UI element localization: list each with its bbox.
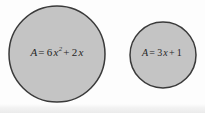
small-circle-plus-sign: + [168,47,176,58]
large-circle-plus-sign: + [62,46,70,58]
small-circle-area-label: A=3x+1 [110,48,205,58]
large-circle-equals-sign: = [37,46,45,58]
large-circle-linear-variable: x [78,46,83,58]
large-circle-quadratic-variable: x [53,46,58,58]
small-circle-constant: 1 [176,47,183,58]
large-circle-area-label: A=6x2+2x [0,47,114,58]
small-circle-equals-sign: = [148,47,156,58]
figure-container: A=6x2+2x A=3x+1 [0,0,205,113]
